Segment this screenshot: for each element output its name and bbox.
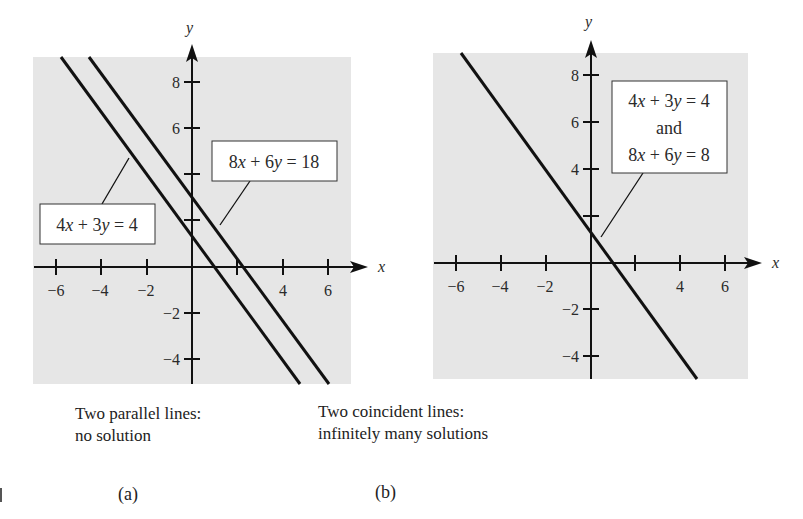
- chart-b-coincident-lines: −6 −4 −2 4 6 8 6 4 −2 −4 x y 4x + 3y = 4…: [400, 0, 803, 400]
- x-tick-label: −2: [137, 282, 154, 299]
- x-tick-label: −6: [447, 278, 464, 295]
- label-4x-3y-4: 4x + 3y = 4: [56, 215, 137, 235]
- panel-label-a: (a): [118, 484, 138, 505]
- y-axis-label: y: [184, 19, 194, 37]
- x-tick-label: 4: [279, 282, 287, 299]
- x-tick-label: 6: [721, 278, 729, 295]
- x-axis-label: x: [771, 254, 779, 271]
- x-tick-label: −2: [536, 278, 553, 295]
- label-line-4x-3y-4: 4x + 3y = 4: [628, 91, 709, 111]
- caption-b-line1: Two coincident lines:: [318, 401, 488, 423]
- label-8x-6y-18: 8x + 6y = 18: [229, 152, 319, 172]
- y-tick-label: −2: [163, 305, 180, 322]
- y-tick-label: 8: [571, 67, 579, 84]
- y-tick-label: 6: [172, 120, 180, 137]
- label-and: and: [656, 118, 682, 138]
- y-tick-label: 8: [172, 74, 180, 91]
- x-tick-label: −4: [491, 278, 508, 295]
- x-tick-label: −6: [47, 282, 64, 299]
- y-tick-label: 4: [571, 161, 579, 178]
- y-tick-label: −4: [562, 348, 579, 365]
- caption-a-line2: no solution: [75, 425, 201, 447]
- y-axis-label: y: [583, 13, 593, 31]
- caption-b-line2: infinitely many solutions: [318, 423, 488, 445]
- caption-a: Two parallel lines: no solution: [75, 403, 201, 447]
- y-tick-label: −4: [163, 351, 180, 368]
- x-tick-label: −4: [91, 282, 108, 299]
- label-line-8x-6y-8: 8x + 6y = 8: [628, 145, 709, 165]
- y-tick-label: 6: [571, 114, 579, 131]
- x-axis-label: x: [377, 258, 385, 275]
- y-tick-label: −2: [562, 301, 579, 318]
- x-tick-label: 6: [324, 282, 332, 299]
- caption-b: Two coincident lines: infinitely many so…: [318, 401, 488, 445]
- x-tick-label: 4: [676, 278, 684, 295]
- caption-a-line1: Two parallel lines:: [75, 403, 201, 425]
- panel-label-b: (b): [375, 482, 396, 503]
- chart-a-parallel-lines: −6 −4 −2 4 6 8 6 −2 −4 x y 8x + 6y = 18 …: [0, 0, 400, 400]
- edge-artifact: [0, 488, 2, 502]
